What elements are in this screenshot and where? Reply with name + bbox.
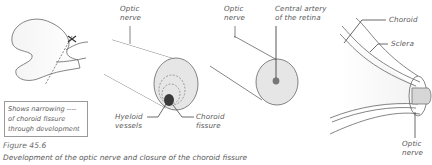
scissors-icon bbox=[68, 36, 76, 42]
sclera-label: Sclera bbox=[391, 40, 414, 49]
optic-nerve-label-1: Optic nerve bbox=[120, 5, 141, 22]
central-artery-mark bbox=[273, 78, 280, 85]
label-line: nerve bbox=[402, 149, 423, 158]
optic-nerve-drawing bbox=[210, 26, 298, 105]
label-line: of the retina bbox=[275, 14, 327, 23]
legend-line-2: of choroid fissure bbox=[8, 114, 84, 124]
optic-cup-outline bbox=[12, 19, 80, 80]
optic-stalk-drawing bbox=[104, 26, 198, 117]
legend-line-3: through development bbox=[8, 124, 84, 134]
figure-number: Figure 45.6 bbox=[3, 141, 46, 150]
figure-caption: Development of the optic nerve and closu… bbox=[3, 153, 247, 162]
label-line: nerve bbox=[120, 14, 141, 23]
diagram-canvas bbox=[0, 0, 432, 165]
choroid-label: Choroid bbox=[389, 16, 418, 25]
nerve-stub bbox=[412, 88, 431, 104]
legend-box: Shows narrowing ---- of choroid fissure … bbox=[4, 101, 88, 137]
sclera-pointer bbox=[370, 44, 388, 52]
optic-nerve-label-2: Optic nerve bbox=[224, 5, 245, 22]
central-artery-label: Central artery of the retina bbox=[275, 5, 327, 22]
label-line: nerve bbox=[224, 14, 245, 23]
choroid-fissure-label: Choroid fissure bbox=[196, 113, 225, 130]
cylinder-face bbox=[154, 58, 198, 110]
hyaloid-vessels-label: Hyeloid vessels bbox=[115, 113, 143, 130]
optic-nerve-label-3: Optic nerve bbox=[402, 140, 423, 157]
label-line: vessels bbox=[115, 122, 143, 131]
optic-cup-drawing bbox=[12, 19, 88, 85]
label-line: fissure bbox=[196, 122, 225, 131]
legend-line-1: Shows narrowing ---- bbox=[8, 104, 84, 114]
eye-connection-drawing bbox=[330, 18, 431, 138]
